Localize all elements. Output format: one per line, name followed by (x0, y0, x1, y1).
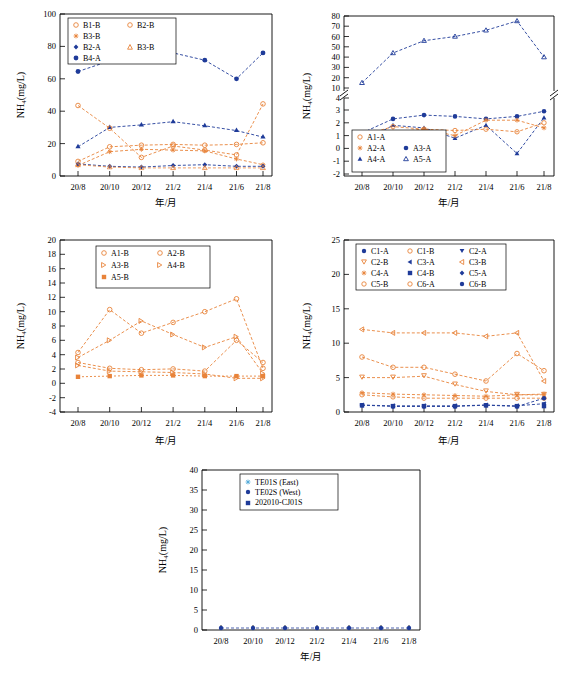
xtick: 20/10 (243, 636, 262, 646)
legend-C6-B: C6-B (469, 280, 486, 289)
xtick: 21/4 (197, 182, 213, 192)
legend-A4-A: A4-A (367, 155, 385, 164)
chart-panel-a-upper: 10 20 30 40 50 60 70 80 -2 -1 0 1 (296, 6, 574, 221)
xtick: 21/6 (509, 418, 524, 428)
legend-A2-A: A2-A (367, 144, 385, 153)
ytick: 8 (52, 321, 56, 331)
legend-C4-A: C4-A (371, 269, 389, 278)
ytick: 14 (48, 278, 57, 288)
ytick: 5 (194, 605, 198, 615)
legend-B1-B: B1-B (83, 21, 100, 30)
panel-a-upper-frame (344, 16, 554, 91)
xtick: 20/10 (383, 182, 402, 192)
xtick: 20/12 (275, 636, 294, 646)
xtick: 21/4 (478, 418, 494, 428)
legend-B3-B-2: B3-B (137, 43, 154, 52)
legend-TE01S: TE01S (East) (255, 478, 299, 487)
legend-A1-A: A1-A (367, 133, 385, 142)
ytick: 5 (336, 373, 340, 383)
panel-te-legend: TE01S (East) TE02S (West) 202010-CJ01S (240, 474, 338, 510)
legend-A1-B: A1-B (111, 249, 129, 258)
y-axis-label: NH₄(mg/L) (157, 527, 169, 573)
panel-b-yticks: 0 20 40 60 80 100 (43, 9, 65, 181)
panel-b-xticks: 20/8 20/10 20/12 21/2 21/4 21/6 21/8 (70, 171, 270, 192)
xtick: 21/8 (255, 182, 270, 192)
panel-ab-yticks: -4 -2 0 2 4 6 8 10 12 14 16 18 20 (48, 235, 66, 417)
ytick: 1 (336, 131, 340, 141)
ytick: 50 (332, 42, 341, 52)
y-axis-label: NH₄(mg/L) (301, 303, 313, 349)
xtick: 21/2 (447, 418, 462, 428)
ytick: 10 (190, 585, 199, 595)
legend-A4-B: A4-B (167, 261, 185, 270)
legend-A3-A: A3-A (413, 144, 431, 153)
ytick: 60 (332, 32, 341, 42)
panel-a-lower-yticks: -2 -1 0 1 2 3 4 (333, 93, 349, 179)
y-axis-label: NH₄(mg/L) (15, 72, 27, 118)
xtick: 20/12 (132, 418, 151, 428)
ytick: -2 (333, 169, 340, 179)
x-axis-label: 年/月 (155, 435, 178, 446)
x-axis-label: 年/月 (300, 651, 323, 662)
legend-C6-A: C6-A (417, 280, 435, 289)
ytick: 15 (190, 565, 199, 575)
ytick: 40 (190, 465, 199, 475)
legend-C5-A: C5-A (469, 269, 487, 278)
ytick: 25 (332, 235, 341, 245)
ytick: 10 (332, 83, 341, 93)
y-axis-label: NH₄(mg/L) (301, 73, 313, 119)
series-C1-B (362, 354, 544, 382)
xtick: 20/10 (100, 418, 119, 428)
ytick: 20 (190, 545, 199, 555)
series-A3-B (78, 321, 263, 374)
ytick: 4 (52, 350, 57, 360)
chart-panel-b: 0 20 40 60 80 100 20/8 20/10 20/12 21/2 … (8, 6, 288, 221)
xtick: 20/10 (383, 418, 402, 428)
panel-ab-xticks: 20/8 20/10 20/12 21/2 21/4 21/6 21/8 (70, 407, 270, 428)
xtick: 21/4 (341, 636, 357, 646)
panel-ab-svg: -4 -2 0 2 4 6 8 10 12 14 16 18 20 (8, 232, 288, 457)
ytick: -2 (49, 393, 56, 403)
xtick: 21/8 (536, 182, 551, 192)
xtick: 21/8 (536, 418, 551, 428)
xtick: 21/4 (478, 182, 494, 192)
ytick: 40 (332, 52, 341, 62)
panel-te-svg: 0 5 10 15 20 25 30 35 40 20/8 20/10 20/1… (150, 462, 440, 682)
panel-c-legend: C1-A C1-B C2-A C2-B C3-A C3-B C4-A C4-B … (356, 244, 506, 290)
xtick: 21/6 (509, 182, 524, 192)
panel-a-legend: A1-A A2-A A3-A A4-A A5-A (352, 130, 446, 172)
legend-CJ01S: 202010-CJ01S (255, 498, 303, 507)
ytick: 35 (190, 485, 199, 495)
ytick: 6 (52, 335, 56, 345)
ytick: -4 (49, 407, 57, 417)
legend-C1-B: C1-B (417, 247, 434, 256)
legend-C2-A: C2-A (469, 247, 487, 256)
ytick: 2 (52, 364, 56, 374)
ytick: 20 (332, 269, 341, 279)
panel-ab-legend: A1-B A2-B A3-B A4-B A5-B (96, 246, 210, 288)
series-A2-B-markers (76, 338, 266, 373)
series-A5-A-markers (360, 19, 547, 85)
ytick: 40 (48, 106, 57, 116)
panel-a-xticks: 20/8 20/10 20/12 21/2 21/4 21/6 21/8 (354, 171, 551, 192)
panel-c-xticks: 20/8 20/10 20/12 21/2 21/4 21/6 21/8 (354, 407, 551, 428)
ytick: 80 (332, 11, 341, 21)
ytick: 25 (190, 525, 199, 535)
panel-a-upper-yticks: 10 20 30 40 50 60 70 80 (332, 11, 350, 93)
xtick: 20/8 (354, 418, 369, 428)
panel-c-yticks: 0 5 10 15 20 25 (332, 235, 350, 417)
xtick: 20/8 (70, 418, 85, 428)
xtick: 21/4 (197, 418, 213, 428)
panel-a-upper-svg: 10 20 30 40 50 60 70 80 -2 -1 0 1 (296, 6, 574, 221)
y-axis-label: NH₄(mg/L) (15, 303, 27, 349)
ytick: 100 (43, 9, 56, 19)
xtick: 20/12 (414, 418, 433, 428)
axis-break-marks (340, 90, 558, 100)
xtick: 21/6 (229, 182, 244, 192)
ytick: 0 (52, 171, 56, 181)
ytick: 0 (336, 407, 340, 417)
xtick: 21/8 (255, 418, 270, 428)
ytick: 0 (336, 143, 340, 153)
xtick: 21/6 (229, 418, 244, 428)
legend-TE02S: TE02S (West) (255, 488, 301, 497)
